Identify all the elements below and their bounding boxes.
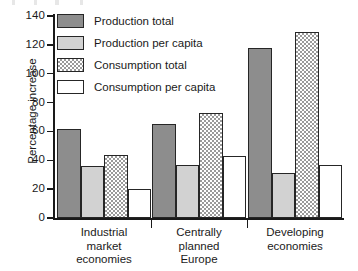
y-tick	[47, 160, 53, 162]
scan-artifact	[6, 0, 126, 5]
y-tick	[47, 15, 53, 17]
legend-swatch-consumption-total	[57, 58, 84, 72]
legend-label: Production per capita	[94, 35, 203, 51]
y-tick	[47, 131, 53, 133]
bar-consumption-per-capita-group-1	[128, 189, 152, 218]
legend-label: Production total	[94, 13, 174, 29]
legend-swatch-production-total	[57, 14, 84, 28]
bar-consumption-per-capita-group-3	[319, 165, 343, 218]
y-tick	[47, 188, 53, 190]
legend-label: Consumption per capita	[94, 79, 215, 95]
legend-swatch-consumption-per-capita	[57, 80, 84, 94]
bar-production-total-group-2	[152, 124, 176, 218]
y-tick-label-text: 0	[39, 211, 46, 223]
bar-consumption-total-group-1	[104, 155, 128, 218]
bar-production-per-capita-group-1	[81, 166, 105, 218]
y-tick	[47, 44, 53, 46]
y-tick	[47, 102, 53, 104]
bar-production-total-group-3	[248, 48, 272, 218]
y-axis-title: Percentage increase	[26, 26, 38, 196]
bar-consumption-total-group-2	[199, 113, 223, 218]
bar-production-total-group-1	[57, 129, 81, 218]
y-tick	[47, 217, 53, 219]
bar-consumption-per-capita-group-2	[223, 156, 247, 218]
y-tick-label-text: 140	[26, 9, 46, 21]
x-axis-line	[53, 218, 344, 220]
category-label-3: Developing economies	[240, 226, 350, 253]
bar-production-per-capita-group-3	[272, 173, 296, 218]
bar-production-per-capita-group-2	[176, 165, 200, 218]
y-tick	[47, 73, 53, 75]
category-label-1: Industrial market economies	[49, 226, 159, 267]
category-label-2: Centrally planned Europe	[144, 226, 254, 267]
y-axis-line	[53, 14, 55, 219]
bar-consumption-total-group-3	[295, 32, 319, 218]
legend-label: Consumption total	[94, 57, 187, 73]
bar-chart-figure: 140120100806040200 Percentage increase P…	[0, 0, 358, 271]
legend-swatch-production-per-capita	[57, 36, 84, 50]
